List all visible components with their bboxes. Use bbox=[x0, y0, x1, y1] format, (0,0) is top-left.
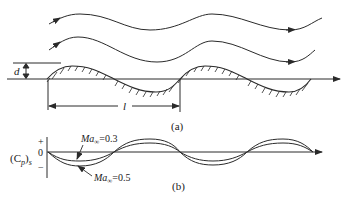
tick-minus: − bbox=[38, 162, 44, 173]
streamline-top bbox=[49, 14, 322, 30]
figure-b: + 0 − (Cp)s Ma∞=0.3 Ma∞=0.5 (b) bbox=[10, 133, 322, 193]
wavelength-label: l bbox=[123, 100, 126, 112]
ma-0-5-leader-arrow-icon bbox=[78, 166, 92, 176]
figure-a: d l (a) bbox=[7, 14, 340, 133]
figure-b-caption: (b) bbox=[172, 180, 185, 193]
wavy-wall-flow-diagram: d l (a) + 0 − (Cp)s Ma∞=0.3 Ma∞=0.5 bbox=[0, 0, 347, 200]
streamline-top-arrow-out-icon bbox=[286, 30, 295, 31]
tick-plus: + bbox=[38, 136, 44, 147]
amplitude-arrow-icon bbox=[23, 64, 29, 79]
ma-0-3-label: Ma∞=0.3 bbox=[80, 133, 117, 146]
streamline-top-arrow-in-icon bbox=[53, 18, 60, 22]
streamline-second-arrow-out-icon bbox=[286, 62, 295, 63]
figure-a-caption: (a) bbox=[171, 120, 184, 133]
cp-y-label: (Cp)s bbox=[10, 152, 32, 167]
streamline-second-arrow-in-icon bbox=[53, 42, 60, 47]
amplitude-label: d bbox=[14, 65, 20, 77]
streamline-second bbox=[49, 37, 315, 62]
tick-zero: 0 bbox=[38, 147, 43, 158]
ma-0-5-label: Ma∞=0.5 bbox=[93, 172, 130, 185]
